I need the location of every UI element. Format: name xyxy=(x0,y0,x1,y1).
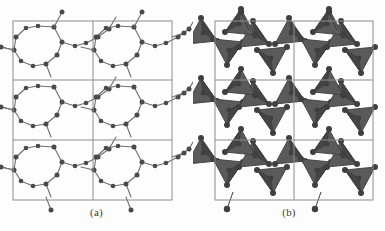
figure-root: (a) xyxy=(0,0,385,231)
panel-a-structure xyxy=(0,10,193,213)
panel-b-caption: (b) xyxy=(193,206,385,218)
panel-b-svg xyxy=(193,0,385,231)
panel-b-polyhedral: (b) xyxy=(193,0,385,231)
panel-a-caption: (a) xyxy=(0,206,193,218)
panel-a-unit-cell-grid xyxy=(13,21,172,200)
panel-b-structure xyxy=(193,6,378,212)
panel-a-svg xyxy=(0,0,193,231)
panel-a-ball-and-stick: (a) xyxy=(0,0,193,231)
